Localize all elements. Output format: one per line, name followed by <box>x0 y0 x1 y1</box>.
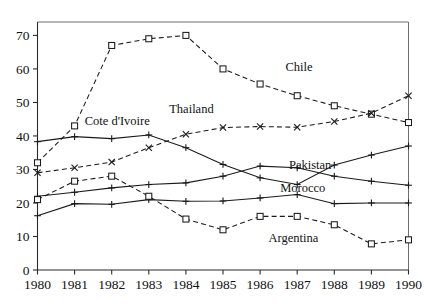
y-tick-label-70: 70 <box>16 28 30 43</box>
data-point-marker-pakistan <box>145 181 152 188</box>
data-point-marker-chile <box>35 160 41 166</box>
data-point-marker-pakistan <box>405 182 412 189</box>
x-tick-label-1985: 1985 <box>210 277 237 292</box>
x-tick-label-1981: 1981 <box>61 277 88 292</box>
data-point-marker-morocco <box>257 195 264 202</box>
x-tick-label-1987: 1987 <box>284 277 311 292</box>
data-point-marker-chile <box>331 103 337 109</box>
data-point-marker-cote-d-ivoire <box>257 174 264 181</box>
data-point-marker-pakistan <box>368 178 375 185</box>
data-point-marker-argentina <box>257 213 263 219</box>
y-tick-label-40: 40 <box>16 129 30 144</box>
x-tick-label-1984: 1984 <box>172 277 199 292</box>
data-point-marker-cote-d-ivoire <box>145 132 152 139</box>
series-chile <box>35 32 412 165</box>
data-point-marker-argentina <box>331 222 337 228</box>
data-series-group <box>34 32 412 246</box>
y-axis-tick-labels: 010203040506070 <box>16 28 30 278</box>
series-line-pakistan <box>38 166 409 196</box>
data-point-marker-argentina <box>183 216 189 222</box>
data-point-marker-pakistan <box>71 189 78 196</box>
data-point-marker-pakistan <box>220 173 227 180</box>
series-label-thailand: Thailand <box>169 102 214 116</box>
data-point-marker-cote-d-ivoire <box>71 133 78 140</box>
data-point-marker-pakistan <box>257 163 264 170</box>
y-tick-label-60: 60 <box>16 62 30 77</box>
x-tick-label-1989: 1989 <box>358 277 385 292</box>
data-point-marker-morocco <box>220 198 227 205</box>
data-point-marker-argentina <box>406 237 412 243</box>
y-tick-label-20: 20 <box>16 196 30 211</box>
data-point-marker-cote-d-ivoire <box>405 143 412 150</box>
data-point-marker-argentina <box>109 173 115 179</box>
data-point-marker-cote-d-ivoire <box>183 144 190 151</box>
data-point-marker-argentina <box>220 227 226 233</box>
data-point-marker-pakistan <box>183 179 190 186</box>
data-point-marker-chile <box>72 123 78 129</box>
data-point-marker-cote-d-ivoire <box>368 152 375 159</box>
y-axis-ticks <box>33 35 38 270</box>
x-tick-label-1986: 1986 <box>247 277 274 292</box>
x-tick-label-1980: 1980 <box>24 277 51 292</box>
data-point-marker-argentina <box>146 193 152 199</box>
y-tick-label-50: 50 <box>16 95 30 110</box>
data-point-marker-pakistan <box>108 184 115 191</box>
series-label-pakistan: Pakistan <box>289 158 332 172</box>
line-chart: 010203040506070 198019811982198319841985… <box>0 0 424 306</box>
data-point-marker-chile <box>109 42 115 48</box>
x-tick-label-1990: 1990 <box>395 277 422 292</box>
x-tick-label-1982: 1982 <box>98 277 125 292</box>
data-point-marker-chile <box>220 66 226 72</box>
x-axis-ticks <box>38 270 409 275</box>
data-point-marker-cote-d-ivoire <box>331 162 338 169</box>
series-label-cote-d-ivoire: Cote d'Ivoire <box>85 114 151 128</box>
data-point-marker-morocco <box>405 200 412 207</box>
x-tick-label-1988: 1988 <box>321 277 348 292</box>
data-point-marker-chile <box>294 93 300 99</box>
data-point-marker-thailand <box>146 145 152 151</box>
series-line-chile <box>38 35 409 162</box>
data-point-marker-argentina <box>368 241 374 247</box>
chart-container: 010203040506070 198019811982198319841985… <box>0 0 424 306</box>
data-point-marker-morocco <box>331 200 338 207</box>
series-label-chile: Chile <box>286 60 314 74</box>
series-argentina <box>35 173 412 247</box>
data-point-marker-chile <box>146 36 152 42</box>
x-tick-label-1983: 1983 <box>135 277 162 292</box>
data-point-marker-chile <box>183 32 189 38</box>
data-point-marker-argentina <box>294 213 300 219</box>
data-point-marker-chile <box>257 81 263 87</box>
series-morocco <box>34 191 412 219</box>
data-point-marker-chile <box>406 120 412 126</box>
data-point-marker-cote-d-ivoire <box>34 138 41 145</box>
x-axis-tick-labels: 1980198119821983198419851986198719881989… <box>24 277 422 292</box>
data-point-marker-morocco <box>34 212 41 219</box>
data-point-marker-cote-d-ivoire <box>220 161 227 168</box>
series-line-argentina <box>38 176 409 244</box>
y-tick-label-0: 0 <box>23 263 30 278</box>
data-point-marker-morocco <box>71 200 78 207</box>
data-point-marker-morocco <box>368 200 375 207</box>
data-point-marker-argentina <box>35 197 41 203</box>
series-pakistan <box>34 163 412 200</box>
data-point-marker-morocco <box>108 201 115 208</box>
data-point-marker-pakistan <box>331 173 338 180</box>
data-point-marker-cote-d-ivoire <box>108 135 115 142</box>
data-point-marker-argentina <box>72 178 78 184</box>
series-label-morocco: Morocco <box>280 181 325 195</box>
data-point-marker-morocco <box>183 198 190 205</box>
y-tick-label-30: 30 <box>16 162 30 177</box>
data-point-marker-thailand <box>109 159 115 165</box>
y-tick-label-10: 10 <box>16 229 30 244</box>
series-label-argentina: Argentina <box>269 231 319 245</box>
